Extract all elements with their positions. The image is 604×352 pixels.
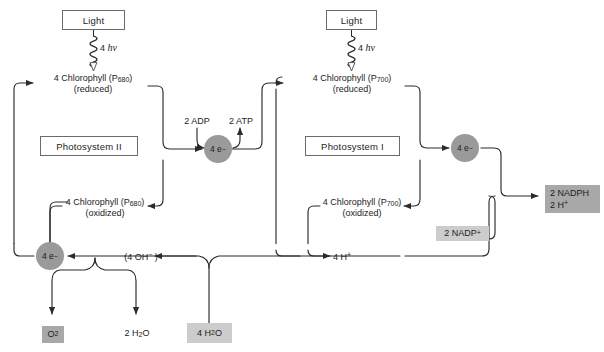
- electron-charge-water: −: [54, 253, 58, 260]
- p700-subscript-reduced: 700: [377, 76, 389, 83]
- light-box-ps1-label: Light: [341, 15, 363, 26]
- p680-oxidized-state: (oxidized): [85, 208, 124, 218]
- proton-charge: +: [347, 251, 351, 258]
- connector-layer: [0, 0, 604, 352]
- photosystem-ii-box: Photosystem II: [40, 136, 138, 156]
- photon-symbol-ps1: hv: [366, 42, 375, 53]
- p680-reduced-state: (reduced): [74, 84, 113, 94]
- p700-subscript-oxidized: 700: [387, 200, 399, 207]
- p680-subscript-reduced: 680: [118, 76, 130, 83]
- p680-subscript-oxidized: 680: [130, 200, 142, 207]
- nadph-line-2: 2 H+: [550, 199, 568, 211]
- electron-node-water: 4 e−: [36, 242, 64, 270]
- hydroxide-label: (4 OH− ): [124, 251, 158, 263]
- proton-charge-nadph: +: [564, 199, 568, 206]
- light-box-ps2-label: Light: [83, 15, 105, 26]
- photosystem-i-box: Photosystem I: [305, 136, 400, 156]
- photosystem-i-label: Photosystem I: [321, 141, 384, 152]
- nadp-charge: +: [477, 229, 481, 237]
- chlorophyll-p700-oxidized: 4 Chlorophyll (P700) (oxidized): [323, 197, 402, 219]
- p700-reduced-state: (reduced): [333, 84, 372, 94]
- diagram-canvas: Light 4 hv 4 Chlorophyll (P680) (reduced…: [0, 0, 604, 352]
- light-box-ps2: Light: [62, 10, 125, 30]
- proton-label: 4 H+: [333, 251, 351, 263]
- photon-label-ps2: 4 hv: [100, 42, 117, 54]
- chlorophyll-p680-oxidized: 4 Chlorophyll (P680) (oxidized): [66, 197, 145, 219]
- nadph-product-box: 2 NADPH 2 H+: [545, 185, 600, 213]
- water-output-label: 2 H2O: [125, 328, 150, 339]
- oxygen-output-box: O2: [42, 326, 64, 343]
- electron-charge-ps2: −: [222, 146, 226, 153]
- atp-label: 2 ATP: [229, 116, 253, 127]
- nadph-line-1: 2 NADPH: [550, 188, 589, 199]
- chlorophyll-p700-reduced: 4 Chlorophyll (P700) (reduced): [313, 73, 392, 95]
- water-input-box: 4 H2O: [187, 323, 232, 343]
- photosystem-ii-label: Photosystem II: [56, 141, 122, 152]
- electron-charge-ps1: −: [469, 145, 473, 152]
- electron-node-ps1: 4 e−: [451, 134, 479, 162]
- light-box-ps1: Light: [326, 10, 377, 30]
- oxygen-subscript: 2: [55, 330, 59, 338]
- electron-node-ps2: 4 e−: [204, 135, 232, 163]
- photon-label-ps1: 4 hv: [358, 42, 375, 54]
- photon-symbol-ps2: hv: [108, 42, 117, 53]
- p700-oxidized-state: (oxidized): [342, 208, 381, 218]
- adp-label: 2 ADP: [184, 116, 210, 127]
- nadp-plus-box: 2 NADP+: [436, 226, 489, 241]
- chlorophyll-p680-reduced: 4 Chlorophyll (P680) (reduced): [54, 73, 133, 95]
